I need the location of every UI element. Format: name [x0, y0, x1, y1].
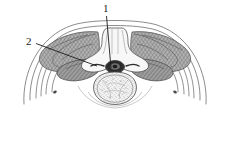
anatomical-figure: 1 2	[0, 0, 230, 144]
vertebral-body	[94, 72, 137, 105]
annotation-label-2: 2	[26, 36, 32, 47]
anatomy-illustration	[0, 0, 230, 144]
annotation-label-1: 1	[103, 3, 109, 14]
